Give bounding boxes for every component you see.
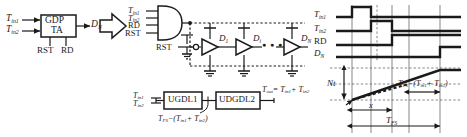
delay-stage-1 [202, 23, 236, 76]
delay-stage-i [236, 23, 262, 76]
label-timing-tin1: Tin1 [314, 10, 326, 19]
label-bottom-tin2: Tin2 [133, 100, 144, 108]
label-tin1-left: Tin1 [6, 14, 19, 24]
reset-bubble-icon [193, 44, 198, 49]
label-gate-input-rst: RST [125, 29, 141, 38]
label-ugdl1: UGDL1 [168, 95, 198, 104]
and-gate-body [158, 6, 182, 40]
label-ramp-annotation: TFS−(Tin1+ Tin2) [398, 80, 448, 88]
label-measure-x: x [369, 101, 373, 110]
label-tfs-expression: TFS−(Tin1+ Tin2) [158, 115, 208, 123]
ramp-origin-pointer [346, 100, 353, 105]
label-nt: Nt [327, 79, 336, 88]
waveform-dn [336, 47, 461, 57]
label-timing-rd: RD [314, 37, 327, 46]
delay-stage-n [276, 23, 308, 76]
label-ta: TA [51, 26, 63, 36]
transition-arrow-icon [100, 14, 126, 38]
label-rst-circuit: RST [156, 43, 172, 52]
label-dn-left: DN [91, 20, 102, 30]
label-measure-tfs: TFS [386, 116, 397, 125]
timing-diagram-group [336, 5, 461, 62]
label-dn-circuit: DN [301, 34, 311, 43]
buffer-i-triangle [236, 39, 252, 55]
label-di: Di [253, 34, 261, 43]
reset-branch-group [178, 35, 199, 59]
waveform-tin2 [336, 21, 461, 31]
label-timing-dn: DN [314, 49, 324, 58]
label-udgdl2: UDGDL2 [219, 95, 255, 104]
stage-ellipsis: ● ● ● [262, 42, 283, 49]
label-tout-expression: Tout= Tin1+ Tin2 [262, 86, 309, 94]
label-rd-left: RD [61, 46, 74, 55]
label-d1: D1 [219, 34, 228, 43]
label-timing-tin2: Tin2 [314, 24, 326, 33]
buffer-1-triangle [202, 39, 218, 55]
label-tin2-left: Tin2 [6, 25, 19, 35]
buffer-n-triangle [284, 39, 300, 55]
figure-root: Tin1 Tin2 GDP TA DN RST RD Tin1 Tin2 RD … [0, 0, 467, 137]
waveform-tin1 [336, 7, 461, 17]
waveform-rd [336, 35, 461, 45]
label-rst-left: RST [37, 46, 54, 55]
